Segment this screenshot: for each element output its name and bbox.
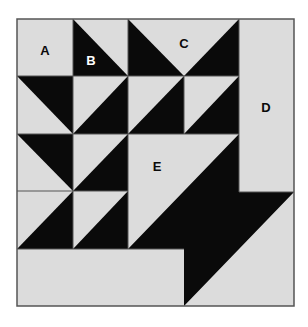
label-c: C xyxy=(179,36,189,51)
label-d: D xyxy=(261,100,270,115)
label-b: B xyxy=(86,53,95,68)
label-e: E xyxy=(153,159,162,174)
label-a: A xyxy=(40,43,50,58)
quilt-block-diagram: A B C D E xyxy=(0,0,308,327)
